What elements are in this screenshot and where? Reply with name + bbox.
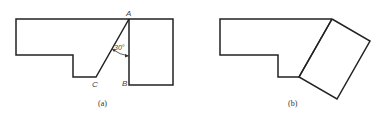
caption-a: (a) (98, 99, 107, 108)
figure-b-rotated-rectangle (299, 19, 370, 99)
point-label-a: A (125, 9, 131, 18)
point-label-c: C (92, 80, 98, 89)
figure-a: 30° A B C (a) (16, 9, 173, 108)
point-label-b: B (122, 79, 128, 88)
figure-a-right-rectangle (129, 19, 173, 85)
angle-label: 30° (114, 44, 125, 51)
figure-b: (b) (220, 19, 370, 108)
diagram-canvas: 30° A B C (a) (b) (0, 0, 384, 120)
figure-a-left-profile (16, 19, 129, 77)
caption-b: (b) (288, 99, 298, 108)
